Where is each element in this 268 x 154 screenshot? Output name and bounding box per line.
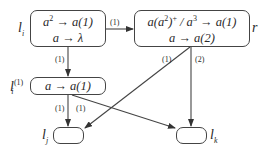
rule-li-2: a → λ [53, 31, 83, 46]
edge-label-li-r: (1) [110, 18, 119, 27]
edge-label-r-lk: (2) [195, 55, 204, 64]
edge-label-li1-lj: (1) [55, 104, 64, 113]
node-r: a(a2)+ / a3 → a(1) a → a(2) [134, 10, 250, 47]
node-lj [53, 127, 84, 144]
node-li1: a → a(1) [30, 77, 106, 95]
rule-r-2: a → a(2) [169, 31, 215, 46]
edge-label-r-lj: (1) [162, 55, 171, 64]
edge-label-li1-lk: (1) [76, 104, 85, 113]
label-r: r [252, 20, 257, 36]
label-lk: lk [210, 127, 217, 145]
edge-label-li-li1: (1) [55, 55, 64, 64]
rule-r-1: a(a2)+ / a3 → a(1) [148, 11, 237, 30]
label-li: li [18, 20, 24, 38]
rule-li1-1: a → a(1) [45, 79, 91, 94]
edge-li1-lk [72, 95, 175, 128]
label-li1: l(1)i [10, 78, 13, 96]
node-lk [176, 127, 207, 144]
rule-li-1: a2 → a(1) [43, 11, 93, 30]
label-lj: lj [42, 127, 48, 145]
node-li: a2 → a(1) a → λ [30, 10, 106, 47]
